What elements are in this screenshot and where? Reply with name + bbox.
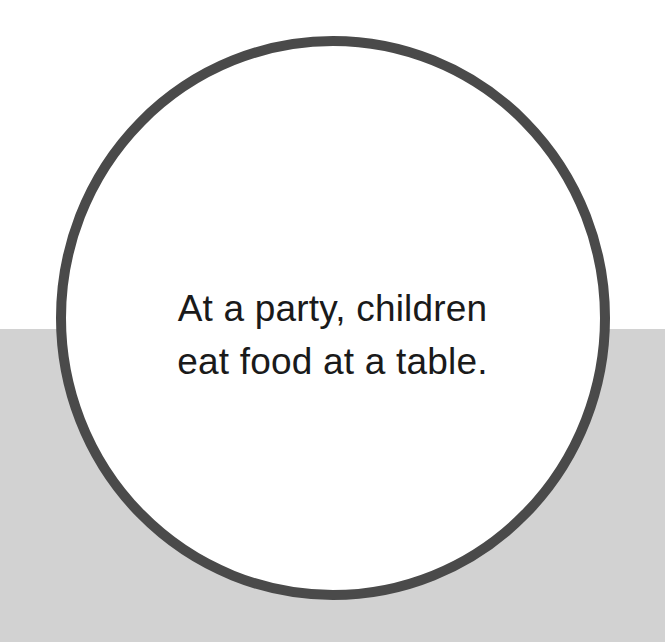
caption-text-block: At a party, children eat food at a table… <box>0 282 665 388</box>
image-canvas: At a party, children eat food at a table… <box>0 0 665 642</box>
caption-line-2: eat food at a table. <box>0 335 665 388</box>
caption-line-1: At a party, children <box>0 282 665 335</box>
